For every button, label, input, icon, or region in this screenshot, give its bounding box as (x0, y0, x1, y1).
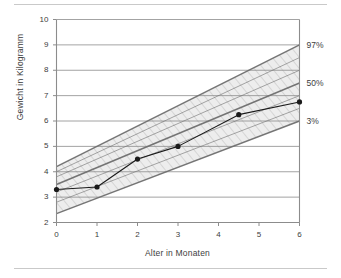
data-point-marker (54, 187, 59, 192)
x-tick-label: 6 (291, 230, 309, 239)
percentile-annotation-50pct: 50% (307, 78, 324, 88)
y-tick-label: 6 (31, 116, 49, 125)
x-tick-label: 0 (48, 230, 66, 239)
y-tick-label: 2 (31, 218, 49, 227)
x-tick-label: 5 (250, 230, 268, 239)
x-tick-label: 2 (129, 230, 147, 239)
x-tick-label: 3 (169, 230, 187, 239)
percentile-annotation-97pct: 97% (307, 40, 324, 50)
data-point-marker (175, 144, 180, 149)
y-tick-label: 7 (31, 91, 49, 100)
data-point-marker (135, 156, 140, 161)
data-point-marker (297, 99, 302, 104)
percentile-annotation-3pct: 3% (307, 116, 319, 126)
data-point-marker (236, 112, 241, 117)
y-tick-label: 9 (31, 40, 49, 49)
y-tick-label: 8 (31, 65, 49, 74)
data-point-marker (94, 184, 99, 189)
y-tick-label: 10 (31, 15, 49, 24)
y-tick-label: 4 (31, 167, 49, 176)
y-axis-label: Gewicht in Kilogramm (15, 17, 25, 137)
y-tick-label: 5 (31, 141, 49, 150)
growth-chart-figure: Gewicht in Kilogramm Alter in Monaten 23… (0, 0, 341, 278)
x-axis-label: Alter in Monaten (56, 248, 299, 258)
x-tick-label: 1 (88, 230, 106, 239)
y-tick-label: 3 (31, 192, 49, 201)
x-tick-label: 4 (210, 230, 228, 239)
